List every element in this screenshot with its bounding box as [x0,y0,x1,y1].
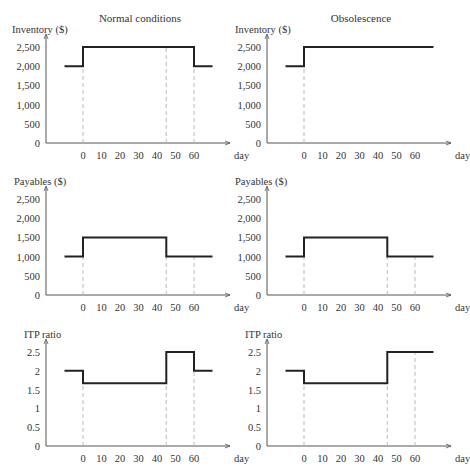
x-tick-label: 0 [80,453,85,464]
y-tick-label: 0 [256,441,261,452]
y-tick-label: 2,500 [16,194,40,205]
series-line [65,47,213,66]
y-tick-label: 0 [35,290,40,301]
y-tick-label: 2 [35,366,40,377]
x-tick-label: 10 [317,150,328,161]
y-tick-label: 500 [245,271,261,282]
x-tick-label: 30 [354,150,365,161]
x-tick-label: 30 [354,302,365,313]
x-tick-label: 50 [170,302,181,313]
y-tick-label: 1,000 [16,252,40,263]
y-tick-label: 2.5 [248,347,261,358]
x-tick-label: 20 [336,453,347,464]
figure: Normal conditionsInventory ($)05001,0001… [0,0,470,473]
y-tick-label: 2,500 [237,42,261,53]
y-tick-label: 2,000 [237,61,261,72]
y-tick-label: 1,500 [16,232,40,243]
x-tick-label: 50 [391,150,402,161]
series-line [65,352,213,383]
series-line [65,237,213,256]
x-tick-label: 60 [189,150,200,161]
x-tick-label: 0 [301,453,306,464]
y-tick-label: 1 [35,403,40,414]
x-tick-label: 60 [410,453,421,464]
y-axis-label: ITP ratio [24,329,61,340]
x-tick-label: 20 [115,453,126,464]
x-tick-label: 10 [96,453,107,464]
x-tick-label: 50 [391,453,402,464]
x-tick-label: 60 [189,453,200,464]
x-axis-label: day [234,453,250,464]
y-tick-label: 500 [24,271,40,282]
x-tick-label: 0 [80,302,85,313]
x-axis-label: day [455,150,470,161]
series-line [286,47,434,66]
x-axis-label: day [455,302,470,313]
x-tick-label: 0 [301,150,306,161]
x-tick-label: 30 [133,453,144,464]
x-tick-label: 20 [336,150,347,161]
x-tick-label: 20 [115,302,126,313]
x-axis-label: day [455,453,470,464]
x-tick-label: 40 [152,302,163,313]
y-tick-label: 1.5 [248,385,261,396]
x-tick-label: 60 [189,302,200,313]
y-tick-label: 1,500 [237,232,261,243]
y-tick-label: 2,000 [16,61,40,72]
panel-title: Obsolescence [331,12,392,24]
y-tick-label: 1,500 [237,80,261,91]
y-tick-label: 1,000 [237,252,261,263]
x-tick-label: 60 [410,302,421,313]
y-tick-label: 2,000 [16,213,40,224]
y-axis-label: Payables ($) [235,176,288,188]
y-tick-label: 2 [256,366,261,377]
x-tick-label: 30 [133,302,144,313]
x-tick-label: 20 [115,150,126,161]
y-axis-label: Payables ($) [14,176,67,188]
y-axis-label: Inventory ($) [235,24,291,36]
x-tick-label: 40 [373,453,384,464]
x-tick-label: 40 [373,302,384,313]
x-tick-label: 10 [317,453,328,464]
y-tick-label: 1.5 [27,385,40,396]
x-tick-label: 0 [80,150,85,161]
x-axis-label: day [234,150,250,161]
x-tick-label: 40 [152,150,163,161]
x-tick-label: 10 [317,302,328,313]
x-tick-label: 50 [170,150,181,161]
x-tick-label: 30 [354,453,365,464]
y-tick-label: 0.5 [27,422,40,433]
x-tick-label: 40 [152,453,163,464]
x-tick-label: 40 [373,150,384,161]
x-tick-label: 30 [133,150,144,161]
y-tick-label: 1,000 [16,100,40,111]
x-tick-label: 50 [170,453,181,464]
x-tick-label: 60 [410,150,421,161]
y-tick-label: 0.5 [248,422,261,433]
series-line [286,237,434,256]
y-tick-label: 2,000 [237,213,261,224]
y-tick-label: 1 [256,403,261,414]
series-line [286,352,434,383]
y-tick-label: 500 [24,119,40,130]
y-tick-label: 0 [35,441,40,452]
y-axis-label: Inventory ($) [12,24,68,36]
x-tick-label: 10 [96,150,107,161]
y-tick-label: 500 [245,119,261,130]
x-tick-label: 50 [391,302,402,313]
y-tick-label: 0 [256,290,261,301]
x-tick-label: 20 [336,302,347,313]
y-tick-label: 0 [256,138,261,149]
x-tick-label: 0 [301,302,306,313]
x-axis-label: day [234,302,250,313]
panel-title: Normal conditions [99,12,181,24]
y-tick-label: 1,500 [16,80,40,91]
y-tick-label: 1,000 [237,100,261,111]
x-tick-label: 10 [96,302,107,313]
y-axis-label: ITP ratio [245,329,282,340]
y-tick-label: 2,500 [237,194,261,205]
y-tick-label: 0 [35,138,40,149]
y-tick-label: 2.5 [27,347,40,358]
y-tick-label: 2,500 [16,42,40,53]
